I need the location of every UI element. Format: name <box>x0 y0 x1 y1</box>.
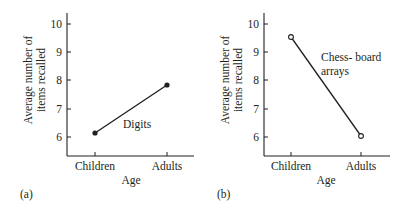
x-axis-title: Age <box>316 174 335 187</box>
y-tick-label: 9 <box>56 46 62 58</box>
x-axis-title: Age <box>121 174 140 187</box>
svg-text:Average number of: Average number of <box>22 36 35 125</box>
y-tick-label: 7 <box>253 103 259 115</box>
svg-text:items recalled: items recalled <box>35 48 47 112</box>
x-tick-label-children: Children <box>75 160 115 172</box>
panel-label-b: (b) <box>217 188 231 201</box>
y-axis-title: Average number of items recalled <box>22 36 47 125</box>
x-tick-label-adults: Adults <box>152 160 183 172</box>
y-tick-label: 8 <box>56 74 62 86</box>
svg-text:items recalled: items recalled <box>232 48 244 112</box>
data-point-adults <box>359 134 364 139</box>
y-tick-labels: 6 7 8 9 10 <box>248 18 260 143</box>
x-tick-label-adults: Adults <box>346 160 377 172</box>
data-point-adults <box>164 82 169 87</box>
figure: 6 7 8 9 10 Children Adults Age Average n… <box>0 0 407 209</box>
panel-a: 6 7 8 9 10 Children Adults Age Average n… <box>20 13 194 201</box>
y-tick-label: 6 <box>253 131 259 143</box>
y-ticks <box>67 24 71 137</box>
panel-b: 6 7 8 9 10 Children Adults Age Average n… <box>217 13 390 201</box>
panel-label-a: (a) <box>20 188 33 201</box>
series-label-chessboard-line2: arrays <box>321 65 350 78</box>
data-point-children <box>289 35 294 40</box>
y-ticks <box>264 24 268 137</box>
series-label-digits: Digits <box>123 118 152 131</box>
y-tick-label: 6 <box>56 131 62 143</box>
y-tick-labels: 6 7 8 9 10 <box>51 18 63 143</box>
y-tick-label: 8 <box>253 74 259 86</box>
y-axis-title: Average number of items recalled <box>219 36 244 125</box>
svg-text:Average number of: Average number of <box>219 36 232 125</box>
x-tick-label-children: Children <box>271 160 311 172</box>
y-tick-label: 10 <box>248 18 260 30</box>
y-tick-label: 7 <box>56 103 62 115</box>
y-tick-label: 9 <box>253 46 259 58</box>
data-point-children <box>92 130 97 135</box>
y-tick-label: 10 <box>51 18 63 30</box>
series-label-chessboard-line1: Chess- board <box>321 51 382 63</box>
